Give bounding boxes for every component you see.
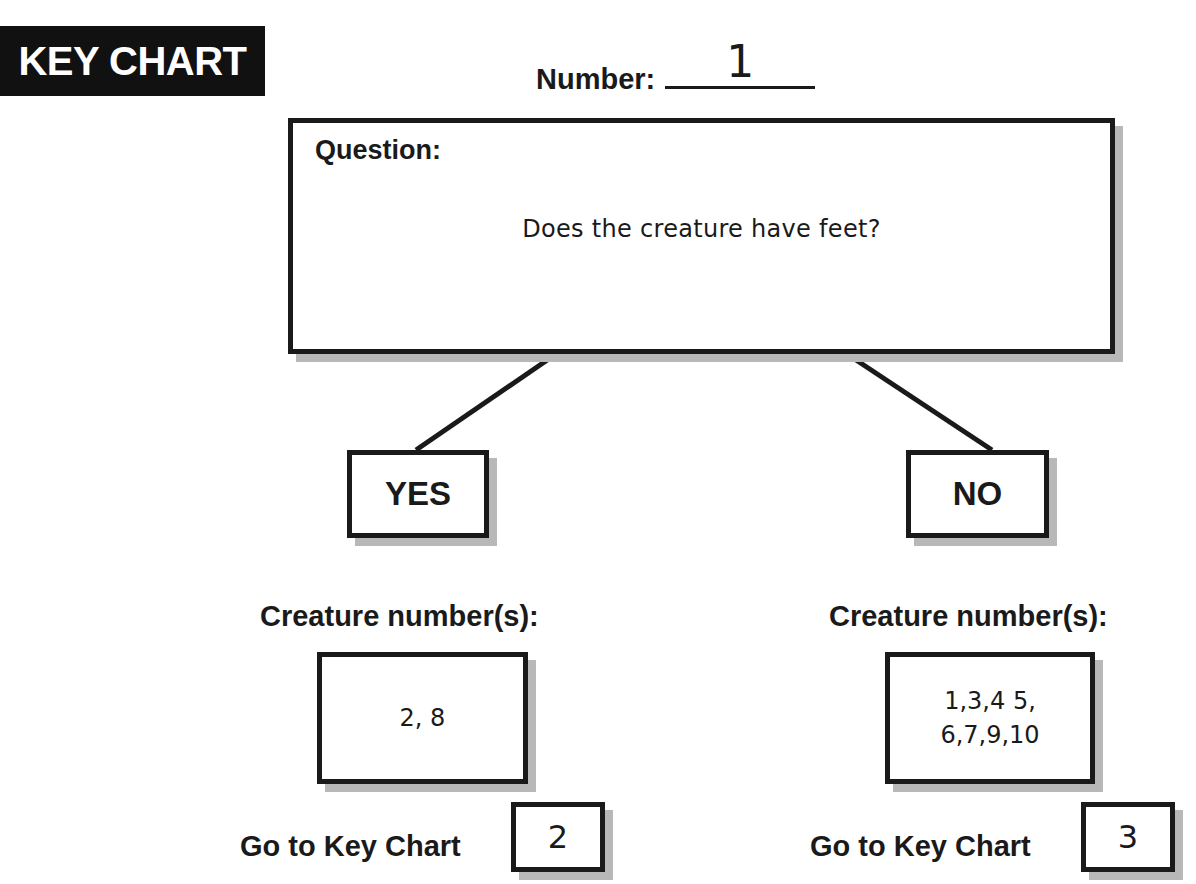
question-text[interactable]: Does the creature have feet? — [293, 215, 1110, 243]
no-connector-line — [847, 354, 992, 450]
yes-creature-numbers-box[interactable]: 2, 8 — [317, 652, 528, 784]
yes-goto-box[interactable]: 2 — [511, 802, 605, 872]
yes-creature-numbers-label: Creature number(s): — [260, 600, 539, 633]
question-box: Question: Does the creature have feet? — [288, 118, 1115, 354]
chart-number-row: Number: 1 — [536, 36, 815, 96]
number-value: 1 — [665, 40, 815, 84]
key-chart-badge: KEY CHART — [0, 26, 265, 96]
no-creature-numbers-label: Creature number(s): — [829, 600, 1108, 633]
number-label: Number: — [536, 62, 655, 96]
no-creature-numbers: 1,3,4 5, 6,7,9,10 — [940, 684, 1039, 752]
no-creature-numbers-box[interactable]: 1,3,4 5, 6,7,9,10 — [885, 652, 1095, 784]
yes-goto-value: 2 — [548, 818, 568, 856]
yes-creature-numbers: 2, 8 — [400, 701, 446, 735]
question-label: Question: — [315, 135, 441, 166]
yes-connector-line — [416, 354, 556, 450]
number-field[interactable]: 1 — [665, 38, 815, 89]
no-goto-box[interactable]: 3 — [1081, 802, 1175, 872]
no-box: NO — [906, 450, 1049, 538]
no-goto-label: Go to Key Chart — [810, 830, 1031, 863]
no-goto-value: 3 — [1118, 818, 1138, 856]
yes-box: YES — [347, 450, 489, 538]
no-label: NO — [953, 475, 1003, 513]
yes-goto-label: Go to Key Chart — [240, 830, 461, 863]
yes-label: YES — [385, 475, 451, 513]
